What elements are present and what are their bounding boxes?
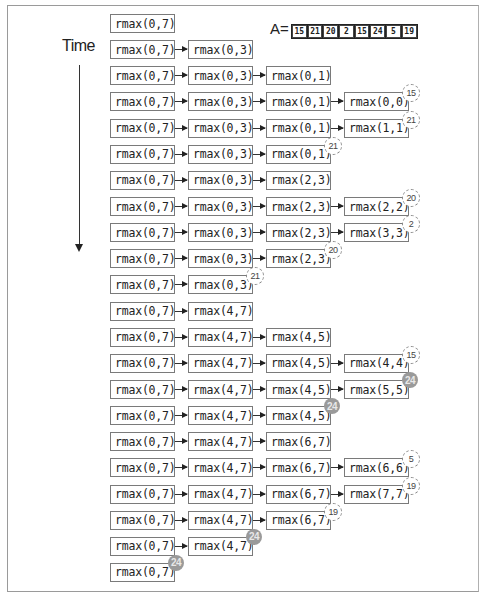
call-frame-box: rmax(0,7) xyxy=(110,66,175,85)
stack-snapshot-row: rmax(0,7)rmax(4,7)24 xyxy=(0,537,484,557)
stack-snapshot-row: rmax(0,7)rmax(0,3) xyxy=(0,40,484,60)
return-value-badge: 21 xyxy=(324,137,342,155)
call-arrow-icon xyxy=(175,467,187,468)
max-return-badge: 24 xyxy=(402,372,418,388)
call-frame-box: rmax(0,0) xyxy=(344,92,409,111)
max-return-badge: 24 xyxy=(324,398,340,414)
call-frame-box: rmax(0,3) xyxy=(188,197,253,216)
call-frame-box: rmax(6,7) xyxy=(266,511,331,530)
call-frame-box: rmax(4,5) xyxy=(266,380,331,399)
call-frame-box: rmax(0,1) xyxy=(266,145,331,164)
call-arrow-icon xyxy=(253,520,265,521)
call-frame-box: rmax(0,3) xyxy=(188,223,253,242)
call-frame-box: rmax(0,3) xyxy=(188,145,253,164)
call-frame-box: rmax(0,7) xyxy=(110,458,175,477)
call-arrow-icon xyxy=(253,363,265,364)
call-frame-box: rmax(4,7) xyxy=(188,432,253,451)
call-arrow-icon xyxy=(175,180,187,181)
call-frame-box: rmax(4,7) xyxy=(188,328,253,347)
call-frame-box: rmax(0,7) xyxy=(110,275,175,294)
stack-snapshot-row: rmax(0,7)rmax(0,3)rmax(0,1) xyxy=(0,66,484,86)
call-frame-box: rmax(4,5) xyxy=(266,406,331,425)
call-frame-box: rmax(3,3) xyxy=(344,223,409,242)
max-return-badge: 24 xyxy=(246,529,262,545)
return-value-badge: 19 xyxy=(324,503,342,521)
return-value-badge: 19 xyxy=(402,477,420,495)
call-arrow-icon xyxy=(175,520,187,521)
call-frame-box: rmax(0,3) xyxy=(188,275,253,294)
call-frame-box: rmax(4,7) xyxy=(188,511,253,530)
call-frame-box: rmax(0,7) xyxy=(110,302,175,321)
call-frame-box: rmax(0,1) xyxy=(266,119,331,138)
call-frame-box: rmax(2,3) xyxy=(266,197,331,216)
max-return-badge: 24 xyxy=(168,555,184,571)
call-arrow-icon xyxy=(253,494,265,495)
call-arrow-icon xyxy=(253,337,265,338)
call-frame-box: rmax(0,7) xyxy=(110,14,175,33)
call-frame-box: rmax(2,3) xyxy=(266,223,331,242)
call-frame-box: rmax(0,3) xyxy=(188,92,253,111)
return-value-badge: 15 xyxy=(402,346,420,364)
call-arrow-icon xyxy=(175,49,187,50)
call-arrow-icon xyxy=(331,363,343,364)
call-arrow-icon xyxy=(331,232,343,233)
call-frame-box: rmax(2,2) xyxy=(344,197,409,216)
stack-snapshot-row: rmax(0,7)rmax(0,3)rmax(0,1)rmax(0,0)15 xyxy=(0,92,484,112)
call-frame-box: rmax(0,7) xyxy=(110,354,175,373)
stack-snapshot-row: rmax(0,7)rmax(4,7)rmax(4,5)rmax(4,4)15 xyxy=(0,354,484,374)
call-frame-box: rmax(4,7) xyxy=(188,458,253,477)
call-arrow-icon xyxy=(175,363,187,364)
call-arrow-icon xyxy=(253,180,265,181)
call-frame-box: rmax(0,7) xyxy=(110,563,175,582)
call-arrow-icon xyxy=(253,75,265,76)
call-frame-box: rmax(0,7) xyxy=(110,380,175,399)
call-frame-box: rmax(0,1) xyxy=(266,92,331,111)
call-frame-box: rmax(0,3) xyxy=(188,249,253,268)
stack-snapshot-row: rmax(0,7)rmax(0,3)rmax(0,1)rmax(1,1)21 xyxy=(0,119,484,139)
call-frame-box: rmax(0,7) xyxy=(110,92,175,111)
return-value-badge: 20 xyxy=(402,189,420,207)
call-frame-box: rmax(0,7) xyxy=(110,223,175,242)
stack-snapshot-row: rmax(0,7) xyxy=(0,14,484,34)
stack-snapshot-row: rmax(0,7)rmax(0,3)21 xyxy=(0,275,484,295)
call-frame-box: rmax(0,1) xyxy=(266,66,331,85)
call-frame-box: rmax(0,3) xyxy=(188,119,253,138)
call-arrow-icon xyxy=(175,546,187,547)
stack-snapshot-row: rmax(0,7)rmax(4,7)rmax(6,7)rmax(6,6)5 xyxy=(0,458,484,478)
call-frame-box: rmax(4,4) xyxy=(344,354,409,373)
call-arrow-icon xyxy=(253,441,265,442)
return-value-badge: 21 xyxy=(402,111,420,129)
call-frame-box: rmax(4,7) xyxy=(188,485,253,504)
call-frame-box: rmax(0,3) xyxy=(188,66,253,85)
call-frame-box: rmax(0,7) xyxy=(110,406,175,425)
call-frame-box: rmax(4,7) xyxy=(188,354,253,373)
call-frame-box: rmax(0,7) xyxy=(110,197,175,216)
call-frame-box: rmax(0,7) xyxy=(110,432,175,451)
call-arrow-icon xyxy=(253,154,265,155)
call-frame-box: rmax(0,3) xyxy=(188,40,253,59)
call-arrow-icon xyxy=(175,337,187,338)
call-arrow-icon xyxy=(175,258,187,259)
call-frame-box: rmax(0,7) xyxy=(110,249,175,268)
call-arrow-icon xyxy=(331,467,343,468)
call-frame-box: rmax(4,7) xyxy=(188,406,253,425)
call-arrow-icon xyxy=(331,389,343,390)
call-arrow-icon xyxy=(175,154,187,155)
call-frame-box: rmax(6,7) xyxy=(266,485,331,504)
call-frame-box: rmax(5,5) xyxy=(344,380,409,399)
call-frame-box: rmax(4,7) xyxy=(188,302,253,321)
call-frame-box: rmax(7,7) xyxy=(344,485,409,504)
call-frame-box: rmax(0,3) xyxy=(188,171,253,190)
call-frame-box: rmax(0,7) xyxy=(110,171,175,190)
call-frame-box: rmax(4,7) xyxy=(188,380,253,399)
call-arrow-icon xyxy=(175,415,187,416)
call-arrow-icon xyxy=(253,101,265,102)
call-frame-box: rmax(0,7) xyxy=(110,145,175,164)
stack-snapshot-row: rmax(0,7)rmax(4,7)rmax(4,5)rmax(5,5)24 xyxy=(0,380,484,400)
call-frame-box: rmax(6,7) xyxy=(266,458,331,477)
stack-snapshot-row: rmax(0,7)rmax(4,7) xyxy=(0,302,484,322)
call-arrow-icon xyxy=(253,206,265,207)
call-arrow-icon xyxy=(253,467,265,468)
call-frame-box: rmax(4,5) xyxy=(266,328,331,347)
call-frame-box: rmax(0,7) xyxy=(110,485,175,504)
